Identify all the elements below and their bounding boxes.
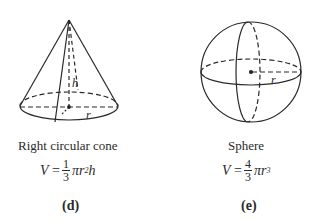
sphere-diagram: r (201, 22, 301, 122)
sphere-volume-formula: V = 43 πr3 (222, 158, 270, 183)
cone-caption: Right circular cone (18, 138, 118, 154)
cone-volume-formula: V = 13 πr2h (40, 158, 95, 183)
figure-label-d: (d) (62, 198, 79, 214)
geometry-figures: h r r (0, 0, 316, 224)
formula-tail: h (88, 163, 95, 179)
formula-fraction: 13 (62, 158, 70, 183)
cone-diagram: h r (20, 20, 118, 122)
formula-rhs: πr (254, 163, 266, 179)
formula-lhs: V (222, 163, 231, 179)
formula-eq: = (52, 163, 60, 179)
svg-text:r: r (271, 73, 276, 87)
formula-exponent: 3 (266, 166, 270, 175)
svg-text:r: r (86, 108, 91, 122)
fraction-denominator: 3 (245, 171, 251, 183)
formula-fraction: 43 (244, 158, 252, 183)
svg-text:h: h (72, 76, 78, 90)
fraction-denominator: 3 (63, 171, 69, 183)
formula-rhs: πr (72, 163, 84, 179)
sphere-caption: Sphere (228, 138, 264, 154)
formula-eq: = (234, 163, 242, 179)
formula-lhs: V (40, 163, 49, 179)
figure-label-e: (e) (241, 198, 257, 214)
